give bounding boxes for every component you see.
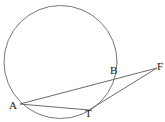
geometry-canvas [0, 0, 165, 122]
chord-line-a-t [20, 104, 89, 110]
point-label-a: A [9, 100, 17, 111]
geometry-figure: A B T F [0, 0, 165, 122]
point-label-t: T [85, 108, 92, 119]
tangent-line-t-f [89, 68, 157, 110]
secant-line-a-f [20, 68, 157, 104]
point-label-f: F [157, 61, 163, 72]
circle-shape [4, 6, 117, 119]
point-label-b: B [110, 65, 117, 76]
